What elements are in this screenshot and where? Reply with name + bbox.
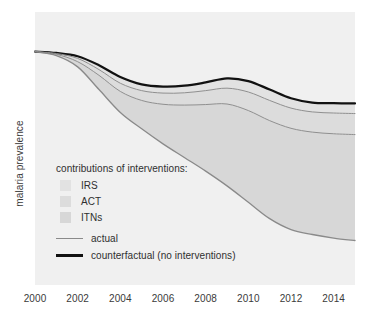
legend-item-act: ACT [56, 194, 306, 209]
legend-label-act: ACT [81, 196, 101, 207]
x-tick-label-2012: 2012 [271, 293, 311, 304]
chart-figure: malaria prevalence 200020022004200620082… [0, 0, 369, 326]
legend-title: contributions of interventions: [56, 163, 306, 174]
legend-label-irs: IRS [81, 180, 98, 191]
x-tick-label-2014: 2014 [314, 293, 354, 304]
legend-label-itns: ITNs [81, 212, 102, 223]
x-tick-label-2004: 2004 [100, 293, 140, 304]
legend-line-list: actualcounterfactual (no interventions) [56, 231, 306, 263]
y-axis-label: malaria prevalence [14, 74, 25, 254]
x-tick-label-2008: 2008 [186, 293, 226, 304]
x-tick-label-2010: 2010 [228, 293, 268, 304]
legend-item-counterfactual-no-interventions: counterfactual (no interventions) [56, 248, 306, 263]
x-tick-label-2000: 2000 [15, 293, 55, 304]
x-tick-label-2006: 2006 [143, 293, 183, 304]
legend-swatch-list: IRSACTITNs [56, 178, 306, 225]
y-axis-label-container: malaria prevalence [0, 0, 30, 326]
legend-line-sample-actual [56, 238, 83, 240]
x-tick-label-2002: 2002 [58, 293, 98, 304]
legend-line-sample-counterfactual-no-interventions [56, 254, 83, 257]
legend-label-actual: actual [91, 233, 118, 244]
legend-item-irs: IRS [56, 178, 306, 193]
legend-item-itns: ITNs [56, 210, 306, 225]
legend-swatch-act [60, 196, 71, 207]
chart-legend: contributions of interventions: IRSACTIT… [56, 163, 306, 265]
legend-swatch-itns [60, 212, 71, 223]
legend-label-counterfactual-no-interventions: counterfactual (no interventions) [91, 250, 236, 261]
legend-item-actual: actual [56, 231, 306, 246]
legend-swatch-irs [60, 180, 71, 191]
